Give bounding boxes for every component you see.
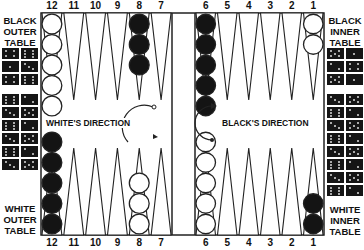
checker-black [42, 214, 62, 234]
label-line: TABLE [326, 37, 364, 48]
checker-white [196, 132, 216, 152]
dice-row [2, 133, 38, 144]
checker-black [129, 14, 149, 34]
die-icon [346, 107, 363, 118]
dice-row [2, 107, 38, 118]
die-icon [21, 146, 38, 157]
die-icon [2, 133, 19, 144]
die-icon [346, 61, 363, 72]
blacks-direction-label: BLACK'S DIRECTION [222, 118, 309, 128]
die-icon [2, 107, 19, 118]
die-icon [21, 48, 38, 59]
checker-white [196, 194, 216, 214]
checker-black [42, 132, 62, 152]
whites-direction-label: WHITE'S DIRECTION [46, 118, 130, 128]
checker-black [304, 214, 324, 234]
checker-white [42, 14, 62, 34]
checker-white [42, 96, 62, 116]
die-icon [21, 74, 38, 85]
die-icon [2, 146, 19, 157]
dice-row [2, 159, 38, 170]
dice-row [2, 48, 38, 59]
label-line: INNER [326, 215, 364, 226]
label-line: INNER [326, 26, 364, 37]
die-icon [327, 185, 344, 196]
label-line: TABLE [0, 225, 40, 236]
point-number: 8 [131, 237, 147, 248]
checker-black [196, 35, 216, 55]
checker-black [129, 55, 149, 75]
die-icon [327, 172, 344, 183]
die-icon [327, 133, 344, 144]
dice-row [327, 48, 363, 59]
die-icon [346, 48, 363, 59]
point-number: 9 [109, 0, 125, 11]
label-line: OUTER [0, 26, 40, 37]
arrow-tail-icon [210, 138, 214, 142]
die-icon [2, 120, 19, 131]
black-inner-table-label: BLACK INNER TABLE [326, 15, 364, 48]
checker-black [196, 14, 216, 34]
die-icon [346, 185, 363, 196]
die-icon [21, 107, 38, 118]
die-icon [2, 74, 19, 85]
point-number: 12 [44, 237, 60, 248]
checker-white [196, 173, 216, 193]
point-number: 11 [66, 0, 82, 11]
point-number: 11 [66, 237, 82, 248]
checker-white [196, 214, 216, 234]
die-icon [21, 120, 38, 131]
checker-white [42, 35, 62, 55]
die-icon [21, 159, 38, 170]
point-number: 3 [262, 237, 278, 248]
point-number: 2 [284, 0, 300, 11]
dice-row [327, 159, 363, 170]
label-line: TABLE [0, 37, 40, 48]
dice-row [327, 185, 363, 196]
point-number: 4 [241, 237, 257, 248]
die-icon [346, 133, 363, 144]
point-number: 12 [44, 0, 60, 11]
dice-row [2, 146, 38, 157]
checker-black [42, 194, 62, 214]
checker-white [129, 194, 149, 214]
checker-white [196, 153, 216, 173]
point-number: 3 [262, 0, 278, 11]
die-icon [21, 133, 38, 144]
label-line: WHITE [0, 203, 40, 214]
checker-white [42, 76, 62, 96]
label-line: TABLE [326, 226, 364, 237]
die-icon [346, 74, 363, 85]
die-icon [327, 94, 344, 105]
die-icon [2, 159, 19, 170]
point-number: 1 [305, 237, 321, 248]
dice-stack-right-top [327, 48, 363, 87]
dice-row [327, 61, 363, 72]
checker-white [42, 55, 62, 75]
point-number: 5 [219, 237, 235, 248]
die-icon [346, 120, 363, 131]
white-inner-table-label: WHITE INNER TABLE [326, 204, 364, 237]
dice-row [2, 120, 38, 131]
label-line: WHITE [326, 204, 364, 215]
checker-black [129, 35, 149, 55]
checker-white [304, 35, 324, 55]
dice-stack-left-top [2, 48, 38, 87]
point-number: 7 [153, 237, 169, 248]
die-icon [327, 159, 344, 170]
dice-row [327, 120, 363, 131]
die-icon [346, 172, 363, 183]
point-number: 8 [131, 0, 147, 11]
die-icon [2, 61, 19, 72]
label-line: BLACK [0, 15, 40, 26]
die-icon [327, 61, 344, 72]
checker-black [42, 173, 62, 193]
point-number: 7 [153, 0, 169, 11]
die-icon [327, 107, 344, 118]
checker-white [304, 14, 324, 34]
black-outer-table-label: BLACK OUTER TABLE [0, 15, 40, 48]
dice-row [327, 133, 363, 144]
dice-row [327, 146, 363, 157]
white-outer-table-label: WHITE OUTER TABLE [0, 203, 40, 236]
point-number: 6 [198, 237, 214, 248]
